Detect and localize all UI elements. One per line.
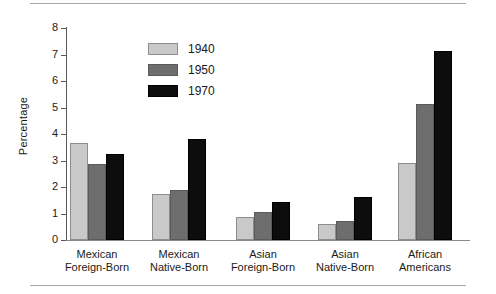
bar-1950-4	[336, 221, 354, 240]
bar-1940-2	[152, 194, 170, 240]
y-axis-tick	[61, 108, 66, 109]
y-axis-tick-label: 7	[38, 49, 58, 60]
bar-1950-5	[416, 104, 434, 240]
plot-area: Percentage 012345678 MexicanForeign-Born…	[0, 0, 496, 294]
y-axis-tick-label: 4	[38, 128, 58, 139]
bar-1970-3	[272, 202, 290, 240]
legend-label: 1970	[188, 84, 215, 98]
bar-1940-1	[70, 143, 88, 240]
y-axis-tick	[61, 28, 66, 29]
y-axis-tick-label: 8	[38, 22, 58, 33]
y-axis-tick	[61, 187, 66, 188]
y-axis-tick	[61, 161, 66, 162]
bar-1970-4	[354, 197, 372, 240]
y-axis-tick	[61, 134, 66, 135]
bar-1950-2	[170, 190, 188, 240]
y-axis-tick	[61, 55, 66, 56]
y-axis-tick-label: 2	[38, 181, 58, 192]
bar-1970-1	[106, 154, 124, 240]
bar-1970-5	[434, 51, 452, 240]
y-axis-tick	[61, 214, 66, 215]
bar-1940-4	[318, 224, 336, 240]
legend-swatch-icon	[148, 43, 178, 55]
bar-1970-2	[188, 139, 206, 240]
chart-figure: Percentage 012345678 MexicanForeign-Born…	[0, 0, 496, 294]
y-axis-tick-label: 6	[38, 75, 58, 86]
y-axis-tick-label: 0	[38, 234, 58, 245]
x-axis-label-5: AfricanAmericans	[370, 248, 480, 274]
y-axis-title: Percentage	[17, 81, 29, 171]
bar-1950-1	[88, 164, 106, 240]
bar-1940-5	[398, 163, 416, 240]
y-axis-tick-label: 5	[38, 102, 58, 113]
y-axis-tick-label: 3	[38, 155, 58, 166]
y-axis-line	[66, 27, 67, 241]
y-axis-tick-label: 1	[38, 208, 58, 219]
legend-label: 1940	[188, 42, 215, 56]
y-axis-tick	[61, 81, 66, 82]
bar-1950-3	[254, 212, 272, 240]
legend-label: 1950	[188, 63, 215, 77]
x-axis-label-line: Americans	[370, 261, 480, 274]
x-axis-label-line: African	[370, 248, 480, 261]
bar-1940-3	[236, 217, 254, 240]
legend-swatch-icon	[148, 64, 178, 76]
y-axis-tick	[61, 240, 66, 241]
legend-swatch-icon	[148, 85, 178, 97]
x-axis-line	[66, 240, 470, 241]
